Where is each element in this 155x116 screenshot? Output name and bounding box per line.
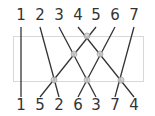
wire-7 xyxy=(115,27,134,97)
bottom-label: 6 xyxy=(73,96,83,114)
bottom-label: 1 xyxy=(16,96,26,114)
wire-3 xyxy=(59,27,96,97)
bottom-label: 3 xyxy=(91,96,101,114)
top-label: 7 xyxy=(129,6,139,24)
wire-6 xyxy=(78,27,115,97)
top-label: 3 xyxy=(54,6,64,24)
top-label: 2 xyxy=(35,6,45,24)
crossing-node xyxy=(84,33,90,39)
bottom-label: 4 xyxy=(129,96,139,114)
crossing-node xyxy=(84,77,90,83)
bottom-labels: 1526374 xyxy=(16,96,139,114)
top-label: 4 xyxy=(73,6,83,24)
crossing-nodes xyxy=(51,33,124,83)
crossing-node xyxy=(97,51,103,57)
crossing-node xyxy=(51,77,57,83)
top-label: 1 xyxy=(16,6,26,24)
network-box xyxy=(14,37,144,82)
crossing-node xyxy=(71,51,77,57)
top-labels: 1234567 xyxy=(16,6,139,24)
bottom-label: 7 xyxy=(110,96,120,114)
crossing-node xyxy=(118,77,124,83)
top-label: 6 xyxy=(110,6,120,24)
bottom-label: 5 xyxy=(35,96,45,114)
wire-2 xyxy=(40,27,59,97)
bottom-label: 2 xyxy=(54,96,64,114)
permutation-diagram: 1234567 1526374 xyxy=(0,0,155,116)
top-label: 5 xyxy=(91,6,101,24)
wires xyxy=(21,27,134,97)
